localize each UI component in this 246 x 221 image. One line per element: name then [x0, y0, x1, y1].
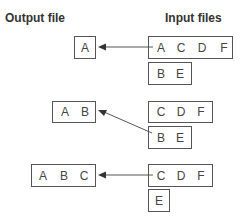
arrow-step-2 [104, 112, 152, 133]
arrows [0, 0, 246, 221]
arrowhead-icon [98, 44, 106, 51]
arrowhead-icon [98, 172, 106, 179]
